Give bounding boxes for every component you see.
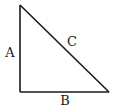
side-c-hypotenuse-line — [20, 5, 109, 92]
side-c-label: C — [67, 35, 77, 48]
triangle-figure — [0, 0, 116, 109]
side-a-label: A — [5, 46, 14, 59]
right-triangle-diagram: A C B — [0, 0, 116, 109]
side-b-label: B — [60, 94, 70, 107]
